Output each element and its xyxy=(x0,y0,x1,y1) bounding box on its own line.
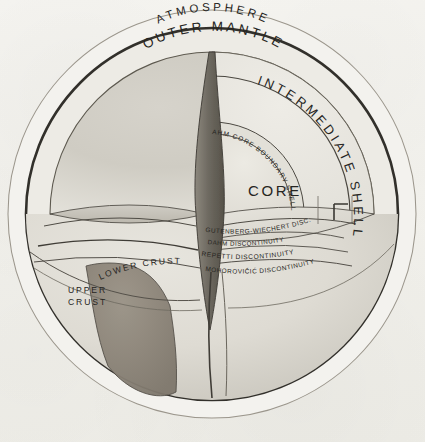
label-core: CORE xyxy=(248,182,302,199)
earth-cutaway-drawing: ATMOSPHERE OUTER MANTLE INTERMEDIATE SHE… xyxy=(0,0,425,442)
label-upper-crust-line1: UPPER xyxy=(68,285,107,295)
label-upper-crust-line2: CRUST xyxy=(68,297,107,307)
earth-cutaway-figure: ATMOSPHERE OUTER MANTLE INTERMEDIATE SHE… xyxy=(0,0,425,442)
